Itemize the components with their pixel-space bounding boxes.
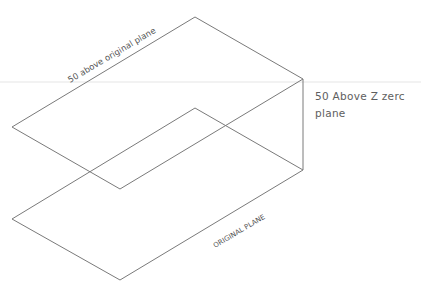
isometric-planes-diagram: 50 above original plane ORIGINAL PLANE <box>0 0 421 301</box>
lower-plane <box>12 108 303 280</box>
lower-plane-label: ORIGINAL PLANE <box>212 213 267 250</box>
upper-plane <box>12 17 303 189</box>
upper-plane-label: 50 above original plane <box>66 25 158 85</box>
offset-annotation-line2: plane <box>315 105 415 122</box>
offset-annotation: 50 Above Z zerc plane <box>315 88 415 122</box>
offset-annotation-line1: 50 Above Z zerc <box>315 88 415 105</box>
